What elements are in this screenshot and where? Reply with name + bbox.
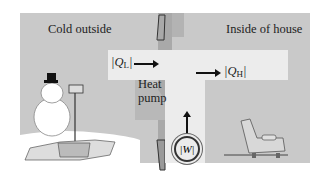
armchair-icon <box>0 0 333 178</box>
